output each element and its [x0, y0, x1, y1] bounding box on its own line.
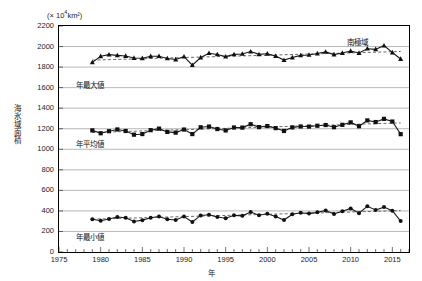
plot-svg — [59, 26, 409, 252]
y-tick-label: 800 — [28, 165, 54, 174]
series-label-max: 年最大値 — [76, 79, 104, 90]
x-tick-label: 1975 — [42, 255, 76, 264]
unit-label: (× 104km²) — [47, 9, 82, 20]
region-annotation-label: 南極域 — [347, 36, 368, 47]
x-tick-label: 1980 — [84, 255, 118, 264]
y-tick-label: 2200 — [28, 21, 54, 30]
x-tick-label: 2005 — [292, 255, 326, 264]
chart-container: (× 104km²) 海氷域面積 年 020040060080010001200… — [0, 0, 422, 281]
y-tick-label: 1600 — [28, 83, 54, 92]
x-axis-title: 年 — [0, 267, 422, 278]
plot-area — [58, 25, 410, 253]
y-tick-label: 2000 — [28, 42, 54, 51]
y-axis-title: 海氷域面積 — [9, 104, 21, 144]
x-tick-label: 1990 — [167, 255, 201, 264]
series-label-min: 年最小値 — [76, 231, 104, 242]
y-tick-label: 1800 — [28, 62, 54, 71]
y-tick-label: 1000 — [28, 144, 54, 153]
x-tick-label: 1985 — [125, 255, 159, 264]
x-tick-label: 1995 — [209, 255, 243, 264]
y-tick-label: 200 — [28, 226, 54, 235]
y-tick-label: 400 — [28, 206, 54, 215]
y-tick-label: 1200 — [28, 124, 54, 133]
y-tick-label: 600 — [28, 185, 54, 194]
series-label-avg: 年平均値 — [76, 138, 104, 149]
x-tick-label: 2000 — [250, 255, 284, 264]
x-tick-label: 2015 — [375, 255, 409, 264]
unit-suffix: km²) — [67, 11, 82, 20]
x-tick-label: 2010 — [334, 255, 368, 264]
y-tick-label: 1400 — [28, 103, 54, 112]
unit-prefix: (× 10 — [47, 11, 64, 20]
